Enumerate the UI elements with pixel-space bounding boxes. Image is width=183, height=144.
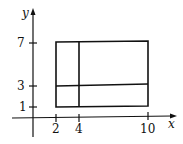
x-tick-label-2: 2	[52, 122, 60, 136]
y-tick-label-1: 1	[19, 100, 27, 114]
x-axis-label: x	[168, 117, 175, 131]
y-tick-label-3: 3	[17, 79, 25, 93]
partition-line-y3	[56, 84, 148, 86]
x-tick-label-10: 10	[140, 122, 155, 136]
y-tick-label-7: 7	[17, 36, 25, 50]
chart-canvas: y x 7 3 1 2 4 10	[0, 0, 183, 144]
y-axis-label: y	[21, 6, 29, 20]
region-rectangle	[56, 41, 148, 107]
x-tick-label-4: 4	[75, 122, 83, 136]
y-axis-arrow-icon	[31, 8, 36, 15]
